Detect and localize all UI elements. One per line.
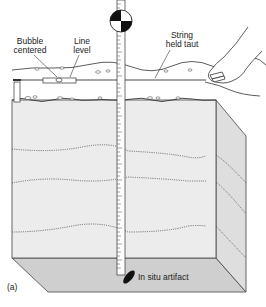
panel-label: (a): [7, 283, 17, 292]
label-bubble-centered: Bubble centered: [8, 37, 52, 55]
label-in-situ-artifact: In situ artifact: [138, 273, 189, 282]
label-line-level: Line level: [70, 37, 94, 55]
stadia-rod: [117, 0, 125, 275]
level-leader: [70, 55, 79, 77]
bubble-leader: [34, 55, 57, 77]
ground-edge: [205, 82, 260, 96]
line-level: [43, 78, 76, 83]
bubble-icon: [56, 78, 62, 82]
string-leader: [155, 50, 170, 78]
hand-illustration: [208, 27, 262, 83]
datum-stake: [14, 82, 20, 102]
label-string-held-taut: String held taut: [160, 31, 204, 49]
rod-target-icon: [110, 10, 132, 32]
